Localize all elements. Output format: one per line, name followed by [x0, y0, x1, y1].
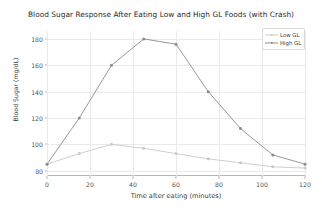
x-tick-label: 20: [86, 181, 94, 188]
y-tick-label: 80: [35, 167, 43, 174]
y-tick-label: 100: [31, 141, 43, 148]
data-point: [78, 117, 81, 120]
x-tick-mark: [90, 176, 91, 179]
data-point: [239, 127, 242, 130]
data-point: [78, 152, 81, 155]
y-tick-label: 140: [31, 88, 43, 95]
legend-item-low-gl[interactable]: Low GL: [265, 31, 301, 39]
data-point: [304, 167, 307, 170]
x-tick-mark: [133, 176, 134, 179]
data-point: [142, 147, 145, 150]
chart-figure: Blood Sugar Response After Eating Low an…: [0, 0, 322, 213]
y-tick-label: 180: [31, 35, 43, 42]
x-tick-mark: [219, 176, 220, 179]
data-point: [46, 163, 49, 166]
data-point: [207, 157, 210, 160]
data-point: [142, 37, 145, 40]
legend-label: Low GL: [280, 31, 300, 39]
x-tick-mark: [176, 176, 177, 179]
data-point: [110, 143, 113, 146]
y-axis-label: Blood Sugar (mg/dL): [12, 40, 19, 140]
x-tick-mark: [262, 176, 263, 179]
x-tick-label: 80: [215, 181, 223, 188]
x-tick-label: 40: [129, 181, 137, 188]
data-point: [304, 163, 307, 166]
y-tick-label: 160: [31, 62, 43, 69]
data-point: [207, 90, 210, 93]
data-point: [271, 153, 274, 156]
x-tick-label: 120: [299, 181, 311, 188]
legend-swatch-icon: [265, 40, 278, 46]
legend-label: High GL: [280, 39, 301, 47]
legend-swatch-icon: [265, 32, 278, 38]
series-line-low-gl: [47, 144, 305, 168]
data-point: [110, 64, 113, 67]
y-tick-label: 120: [31, 115, 43, 122]
data-point: [239, 161, 242, 164]
x-tick-label: 0: [45, 181, 49, 188]
legend: Low GLHigh GL: [262, 28, 305, 50]
data-point: [175, 152, 178, 155]
x-tick-label: 60: [172, 181, 180, 188]
gridline-vertical: [305, 31, 306, 176]
data-point: [175, 43, 178, 46]
chart-title: Blood Sugar Response After Eating Low an…: [0, 10, 322, 19]
x-tick-mark: [305, 176, 306, 179]
x-tick-mark: [47, 176, 48, 179]
series-line-high-gl: [47, 39, 305, 164]
x-axis-label: Time after eating (minutes): [47, 192, 305, 200]
series-lines: [47, 31, 305, 176]
plot-area: 80100120140160180 020406080100120: [47, 31, 305, 176]
x-tick-label: 100: [256, 181, 268, 188]
data-point: [271, 165, 274, 168]
legend-item-high-gl[interactable]: High GL: [265, 39, 301, 47]
